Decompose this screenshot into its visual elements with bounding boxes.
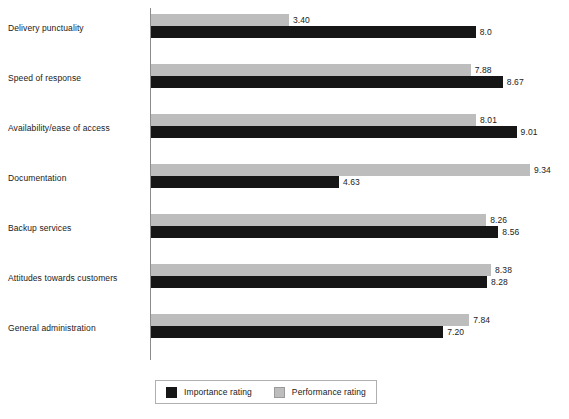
bar-value-performance: 7.88 (475, 64, 492, 76)
category-label: Attitudes towards customers (8, 273, 140, 284)
bar-value-importance: 8.0 (480, 26, 492, 38)
legend-label-performance: Performance rating (292, 387, 366, 398)
bar-value-performance: 8.01 (480, 114, 497, 126)
legend-item-importance: Importance rating (166, 387, 252, 398)
bar-value-importance: 7.20 (447, 326, 464, 338)
category-group: Availability/ease of access 8.01 9.01 (0, 108, 569, 158)
bar-performance (151, 64, 471, 76)
bar-performance (151, 214, 486, 226)
category-label: Availability/ease of access (8, 123, 140, 134)
bar-value-importance: 8.56 (502, 226, 519, 238)
bar-importance (151, 326, 443, 338)
bar-performance (151, 114, 476, 126)
bar-importance (151, 276, 487, 288)
bar-importance (151, 26, 476, 38)
category-group: Documentation 9.34 4.63 (0, 158, 569, 208)
bar-chart: Delivery punctuality 3.40 8.0 Speed of r… (0, 0, 569, 419)
category-label: Documentation (8, 173, 140, 184)
category-label: Speed of response (8, 73, 140, 84)
legend-item-performance: Performance rating (274, 387, 366, 398)
category-group: Backup services 8.26 8.56 (0, 208, 569, 258)
bar-performance (151, 164, 530, 176)
bar-value-performance: 3.40 (293, 14, 310, 26)
bar-importance (151, 226, 498, 238)
bar-value-importance: 9.01 (521, 126, 538, 138)
category-label: Backup services (8, 223, 140, 234)
bar-value-performance: 7.84 (473, 314, 490, 326)
bar-importance (151, 176, 339, 188)
bar-value-importance: 8.67 (507, 76, 524, 88)
category-group: Delivery punctuality 3.40 8.0 (0, 8, 569, 58)
plot-area: Delivery punctuality 3.40 8.0 Speed of r… (0, 0, 569, 370)
bar-performance (151, 314, 469, 326)
legend-label-importance: Importance rating (184, 387, 252, 398)
chart-legend: Importance rating Performance rating (155, 380, 377, 404)
category-group: General administration 7.84 7.20 (0, 308, 569, 358)
bar-importance (151, 126, 517, 138)
category-group: Speed of response 7.88 8.67 (0, 58, 569, 108)
category-label: Delivery punctuality (8, 23, 140, 34)
bar-value-importance: 8.28 (491, 276, 508, 288)
bar-value-performance: 8.26 (490, 214, 507, 226)
importance-swatch-icon (166, 387, 177, 398)
bar-performance (151, 264, 491, 276)
bar-value-performance: 9.34 (534, 164, 551, 176)
bar-value-performance: 8.38 (495, 264, 512, 276)
category-label: General administration (8, 323, 140, 334)
category-group: Attitudes towards customers 8.38 8.28 (0, 258, 569, 308)
bar-importance (151, 76, 503, 88)
bar-value-importance: 4.63 (343, 176, 360, 188)
performance-swatch-icon (274, 387, 285, 398)
bar-performance (151, 14, 289, 26)
